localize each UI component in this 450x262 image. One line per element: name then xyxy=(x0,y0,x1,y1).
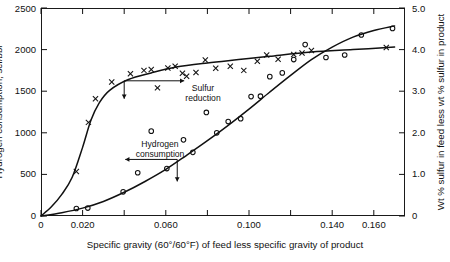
chart-canvas xyxy=(41,8,405,216)
plot-area xyxy=(41,8,405,216)
x-tick-0060: 0.060 xyxy=(146,219,186,230)
y-axis-left-title: Hydrogen consumption, scf/bbl xyxy=(0,45,4,178)
x-tick-0020: 0.020 xyxy=(63,219,103,230)
data-point-o-marker xyxy=(280,71,285,76)
x-tick-0100: 0.100 xyxy=(229,219,269,230)
y-right-tick-1: 1.0 xyxy=(412,168,425,179)
data-points-group xyxy=(74,26,395,211)
data-point-x-marker xyxy=(193,70,198,75)
data-point-x-marker xyxy=(203,57,208,62)
data-point-o-marker xyxy=(238,116,243,121)
data-point-x-marker xyxy=(155,85,160,90)
data-point-x-marker xyxy=(255,59,260,64)
tick-marks-group xyxy=(41,8,405,216)
data-point-x-marker xyxy=(141,68,146,73)
y-right-tick-2: 2.0 xyxy=(412,127,425,138)
data-point-o-marker xyxy=(204,110,209,115)
arrow-sulfur-right xyxy=(124,78,184,83)
x-tick-0140: 0.140 xyxy=(312,219,352,230)
x-tick-0: 0 xyxy=(26,219,56,230)
y-right-tick-0: 0 xyxy=(412,210,417,221)
data-point-o-marker xyxy=(303,42,308,47)
data-point-x-marker xyxy=(184,74,189,79)
data-point-o-marker xyxy=(135,170,140,175)
data-point-x-marker xyxy=(109,79,114,84)
y-axis-right-title: Wt % sulfur in feed less wt % sulfur in … xyxy=(435,14,446,211)
data-point-x-marker xyxy=(180,71,185,76)
y-left-tick-2000: 2000 xyxy=(0,44,36,55)
data-point-o-marker xyxy=(149,129,154,134)
fitted-curves-group xyxy=(41,26,395,216)
data-point-x-marker xyxy=(228,64,233,69)
data-point-o-marker xyxy=(249,94,254,99)
x-axis-title: Specific gravity (60°/60°F) of feed less… xyxy=(87,239,363,250)
data-point-x-marker xyxy=(276,57,281,62)
data-point-x-marker xyxy=(93,96,98,101)
data-point-o-marker xyxy=(258,94,263,99)
figure-container: 2500 2000 1500 1000 500 0 5.0 4.0 3.0 2.… xyxy=(0,0,450,262)
y-left-tick-1000: 1000 xyxy=(0,127,36,138)
arrow-hydrogen-left xyxy=(125,157,177,162)
data-point-o-marker xyxy=(268,74,273,79)
data-point-o-marker xyxy=(324,55,329,60)
y-left-tick-500: 500 xyxy=(0,168,36,179)
data-point-o-marker xyxy=(181,138,186,143)
y-left-tick-1500: 1500 xyxy=(0,85,36,96)
data-point-x-marker xyxy=(241,68,246,73)
data-point-x-marker xyxy=(128,71,133,76)
y-right-tick-3: 3.0 xyxy=(412,85,425,96)
data-point-x-marker xyxy=(213,66,218,71)
x-tick-0160: 0.160 xyxy=(354,219,394,230)
sulfur-reduction-curve xyxy=(41,47,395,216)
data-point-o-marker xyxy=(342,53,347,58)
data-point-o-marker xyxy=(226,119,231,124)
data-point-o-marker xyxy=(291,57,296,62)
hydrogen-consumption-curve xyxy=(41,26,395,216)
arrow-sulfur-down xyxy=(122,81,127,99)
y-right-tick-5: 5.0 xyxy=(412,3,425,14)
y-right-tick-4: 4.0 xyxy=(412,44,425,55)
y-left-tick-2500: 2500 xyxy=(0,3,36,14)
data-point-x-marker xyxy=(149,67,154,72)
